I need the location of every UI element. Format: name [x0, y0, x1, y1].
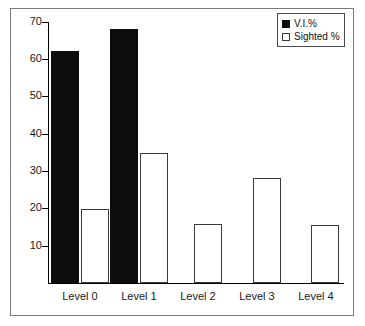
legend-swatch-filled-square-icon	[282, 20, 290, 28]
y-tick-label-20: 20	[14, 202, 42, 213]
y-tick-60	[42, 59, 49, 60]
y-tick-label-60: 60	[14, 53, 42, 64]
legend-swatch-empty-square-icon	[282, 33, 290, 41]
y-tick-10	[42, 246, 49, 247]
legend-item-vi: V.I.%	[282, 17, 340, 30]
x-tick-label-level-2: Level 2	[168, 290, 228, 302]
legend-label-vi: V.I.%	[294, 18, 317, 29]
y-tick-70	[42, 22, 49, 23]
y-tick-label-30: 30	[14, 165, 42, 176]
y-tick-20	[42, 208, 49, 209]
y-tick-label-50: 50	[14, 90, 42, 101]
bar-vi-level-0	[51, 51, 79, 283]
chart-figure: 70 60 50 40 30 20 10 Level 0 Level 1 Lev…	[0, 0, 365, 326]
legend-label-sighted: Sighted %	[294, 31, 340, 42]
x-tick-label-level-4: Level 4	[286, 290, 346, 302]
y-tick-label-10: 10	[14, 240, 42, 251]
x-tick-label-level-3: Level 3	[227, 290, 287, 302]
bar-vi-level-1	[110, 29, 138, 283]
x-tick-label-level-1: Level 1	[109, 290, 169, 302]
y-axis-line	[48, 22, 49, 284]
y-tick-label-40: 40	[14, 128, 42, 139]
chart-legend: V.I.% Sighted %	[277, 13, 345, 47]
y-tick-label-70: 70	[14, 16, 42, 27]
legend-item-sighted: Sighted %	[282, 30, 340, 43]
y-tick-50	[42, 96, 49, 97]
x-tick-label-level-0: Level 0	[50, 290, 110, 302]
bar-sighted-level-2	[194, 224, 222, 283]
bar-sighted-level-3	[253, 178, 281, 283]
y-tick-40	[42, 134, 49, 135]
y-tick-30	[42, 171, 49, 172]
bar-sighted-level-4	[311, 225, 339, 283]
bar-sighted-level-0	[81, 209, 109, 283]
bar-sighted-level-1	[140, 153, 168, 283]
x-axis-baseline	[48, 283, 344, 284]
y-tick-label-group: 70 60 50 40 30 20 10	[10, 0, 42, 326]
